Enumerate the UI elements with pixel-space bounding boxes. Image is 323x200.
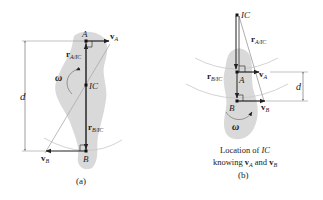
- instantaneous-center-diagram: d ω A IC B vA vB rA/IC: [0, 0, 323, 200]
- omega-label-a: ω: [55, 72, 62, 83]
- caption-a: (a): [76, 176, 86, 186]
- panel-b: d ω IC A B vA vB rA/IC rB/IC Location of…: [186, 10, 308, 180]
- point-A-label-b: A: [238, 75, 245, 85]
- point-IC-a: [85, 84, 88, 87]
- vA-label-a: vA: [110, 31, 119, 42]
- caption-b-line2: knowing vA and vB: [213, 157, 278, 168]
- distance-label-a: d: [20, 90, 26, 102]
- distance-label-b: d: [296, 81, 302, 92]
- omega-label-b: ω: [232, 121, 239, 132]
- vB-label-a: vB: [41, 153, 50, 164]
- point-IC-b: [236, 14, 239, 17]
- point-B-label-a: B: [83, 154, 89, 164]
- panel-a: d ω A IC B vA vB rA/IC: [20, 29, 122, 186]
- vB-label-b: vB: [261, 102, 270, 113]
- point-B-a: [85, 150, 88, 153]
- vA-label-b: vA: [259, 69, 268, 80]
- rB-IC-label-b: rB/IC: [207, 71, 223, 82]
- point-A-label-a: A: [81, 29, 88, 39]
- rA-IC-label-b: rA/IC: [251, 34, 267, 45]
- point-IC-label-b: IC: [240, 10, 251, 20]
- point-A-a: [85, 40, 88, 43]
- point-IC-label-a: IC: [88, 81, 99, 91]
- caption-b-line1: Location of IC: [220, 145, 270, 155]
- point-B-b: [236, 100, 239, 103]
- caption-b: (b): [238, 170, 249, 180]
- point-B-label-b: B: [229, 103, 235, 113]
- point-A-b: [236, 71, 239, 74]
- rigid-body-a: [55, 32, 107, 170]
